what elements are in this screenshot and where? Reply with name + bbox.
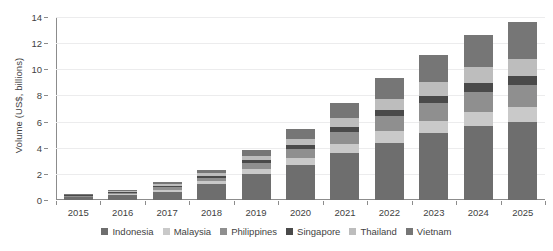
- bar-segment-vietnam[interactable]: [508, 22, 537, 59]
- bar-segment-malaysia[interactable]: [375, 131, 404, 142]
- bar-segment-malaysia[interactable]: [330, 144, 359, 153]
- legend-swatch-icon: [286, 228, 293, 235]
- y-axis-tick-mark: [44, 17, 48, 18]
- x-axis-tick-label: 2016: [98, 207, 148, 218]
- bar-segment-indonesia[interactable]: [286, 165, 315, 200]
- bar-segment-indonesia[interactable]: [242, 174, 271, 200]
- bar-2019[interactable]: [242, 150, 271, 200]
- bar-segment-thailand[interactable]: [419, 82, 448, 96]
- bar-segment-philippines[interactable]: [508, 85, 537, 107]
- bar-segment-indonesia[interactable]: [508, 122, 537, 200]
- bar-segment-philippines[interactable]: [419, 103, 448, 121]
- bar-segment-singapore[interactable]: [464, 83, 493, 91]
- bar-2024[interactable]: [464, 35, 493, 200]
- bar-segment-vietnam[interactable]: [286, 129, 315, 138]
- legend-swatch-icon: [101, 228, 108, 235]
- x-axis-tick-label: 2021: [320, 207, 370, 218]
- bar-segment-singapore[interactable]: [419, 96, 448, 104]
- bar-segment-indonesia[interactable]: [375, 143, 404, 201]
- legend-item-philippines[interactable]: Philippines: [220, 226, 277, 237]
- bar-2020[interactable]: [286, 129, 315, 200]
- y-axis-tick-mark: [44, 200, 48, 201]
- x-axis-tick-mark: [412, 201, 413, 205]
- x-axis-tick-mark: [545, 201, 546, 205]
- y-axis-tick-label: 12: [31, 38, 42, 49]
- bar-segment-malaysia[interactable]: [464, 112, 493, 126]
- bar-segment-thailand[interactable]: [464, 67, 493, 83]
- bar-segment-vietnam[interactable]: [464, 35, 493, 67]
- y-axis-tick-mark: [44, 95, 48, 96]
- y-axis-tick-mark: [44, 174, 48, 175]
- y-axis-tick-mark: [44, 43, 48, 44]
- legend-item-malaysia[interactable]: Malaysia: [163, 226, 212, 237]
- bar-segment-singapore[interactable]: [508, 76, 537, 85]
- bar-segment-philippines[interactable]: [286, 149, 315, 157]
- bar-2022[interactable]: [375, 78, 404, 200]
- x-axis-tick-label: 2025: [498, 207, 548, 218]
- chart-legend: IndonesiaMalaysiaPhilippinesSingaporeTha…: [0, 226, 553, 237]
- bar-segment-indonesia[interactable]: [108, 195, 137, 200]
- stacked-bar-chart: Volume (US$, billions) 02468101214 20152…: [0, 0, 553, 251]
- bar-segment-philippines[interactable]: [464, 92, 493, 112]
- x-axis-tick-mark: [145, 201, 146, 205]
- bar-segment-philippines[interactable]: [330, 132, 359, 144]
- legend-swatch-icon: [349, 228, 356, 235]
- legend-label: Malaysia: [174, 226, 212, 237]
- bar-segment-indonesia[interactable]: [153, 192, 182, 200]
- y-axis-tick-mark: [44, 122, 48, 123]
- gridline: [56, 17, 545, 18]
- x-axis-tick-labels: 2015201620172018201920202021202220232024…: [56, 201, 545, 221]
- bar-segment-malaysia[interactable]: [286, 158, 315, 165]
- bar-segment-thailand[interactable]: [375, 99, 404, 110]
- x-axis-tick-label: 2022: [364, 207, 414, 218]
- x-axis-tick-label: 2024: [453, 207, 503, 218]
- x-axis-tick-mark: [323, 201, 324, 205]
- legend-item-vietnam[interactable]: Vietnam: [406, 226, 452, 237]
- legend-item-singapore[interactable]: Singapore: [286, 226, 340, 237]
- bar-segment-indonesia[interactable]: [464, 126, 493, 201]
- y-axis-tick-label: 6: [37, 116, 42, 127]
- bar-2023[interactable]: [419, 55, 448, 200]
- bar-2016[interactable]: [108, 190, 137, 200]
- bar-segment-vietnam[interactable]: [375, 78, 404, 99]
- x-axis-tick-label: 2020: [276, 207, 326, 218]
- bar-segment-thailand[interactable]: [508, 59, 537, 76]
- legend-item-indonesia[interactable]: Indonesia: [101, 226, 153, 237]
- y-axis-line: [56, 17, 57, 200]
- bar-2021[interactable]: [330, 103, 359, 200]
- x-axis-tick-mark: [501, 201, 502, 205]
- bar-segment-indonesia[interactable]: [197, 184, 226, 200]
- bar-2017[interactable]: [153, 182, 182, 200]
- plot-area: [56, 17, 545, 200]
- bar-2025[interactable]: [508, 22, 537, 200]
- bar-2018[interactable]: [197, 170, 226, 200]
- legend-label: Indonesia: [112, 226, 153, 237]
- x-axis-tick-mark: [189, 201, 190, 205]
- bar-2015[interactable]: [64, 194, 93, 200]
- bar-segment-vietnam[interactable]: [330, 103, 359, 118]
- y-axis-tick-label: 2: [37, 168, 42, 179]
- bar-segment-thailand[interactable]: [330, 118, 359, 127]
- legend-item-thailand[interactable]: Thailand: [349, 226, 396, 237]
- x-axis-tick-mark: [456, 201, 457, 205]
- legend-label: Vietnam: [417, 226, 452, 237]
- x-axis-tick-mark: [278, 201, 279, 205]
- y-axis-tick-label: 8: [37, 90, 42, 101]
- y-axis-tick-label: 4: [37, 142, 42, 153]
- legend-swatch-icon: [406, 228, 413, 235]
- bar-segment-malaysia[interactable]: [419, 121, 448, 133]
- x-axis-tick-mark: [234, 201, 235, 205]
- bar-segment-philippines[interactable]: [375, 116, 404, 131]
- bar-segment-indonesia[interactable]: [330, 153, 359, 200]
- y-axis-tick-mark: [44, 69, 48, 70]
- x-axis-tick-label: 2019: [231, 207, 281, 218]
- x-axis-tick-label: 2023: [409, 207, 459, 218]
- bar-segment-malaysia[interactable]: [508, 107, 537, 121]
- legend-label: Thailand: [360, 226, 396, 237]
- legend-swatch-icon: [163, 228, 170, 235]
- bar-segment-indonesia[interactable]: [64, 197, 93, 200]
- bar-segment-vietnam[interactable]: [419, 55, 448, 82]
- bar-segment-indonesia[interactable]: [419, 133, 448, 200]
- x-axis-tick-mark: [56, 201, 57, 205]
- x-axis-tick-mark: [367, 201, 368, 205]
